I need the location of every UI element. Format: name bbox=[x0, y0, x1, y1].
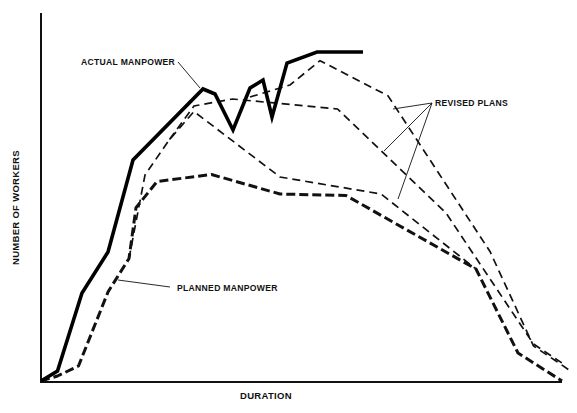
label-actual-manpower: ACTUAL MANPOWER bbox=[81, 57, 176, 67]
leader-revised-1 bbox=[393, 103, 432, 109]
x-axis-label: DURATION bbox=[240, 390, 292, 401]
manpower-chart: ACTUAL MANPOWER PLANNED MANPOWER REVISED… bbox=[0, 0, 577, 413]
series-revised-plan-1 bbox=[129, 112, 476, 270]
label-planned-manpower: PLANNED MANPOWER bbox=[177, 283, 278, 293]
series-revised-plan-3 bbox=[250, 61, 572, 372]
y-axis-label: NUMBER OF WORKERS bbox=[10, 150, 21, 265]
leader-planned bbox=[118, 280, 170, 287]
series-actual-manpower bbox=[41, 52, 363, 381]
label-revised-plans: REVISED PLANS bbox=[435, 98, 508, 108]
leader-actual bbox=[178, 62, 200, 88]
leader-revised-2 bbox=[384, 103, 432, 151]
